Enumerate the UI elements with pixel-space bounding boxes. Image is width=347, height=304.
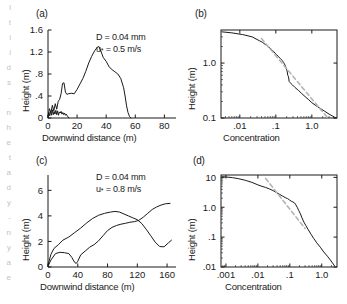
edge-artifact-line: n xyxy=(0,105,13,120)
panel-a-annotation-line1: D = 0.04 mm xyxy=(96,32,146,44)
panel-a-label: (a) xyxy=(36,8,48,19)
panel-d-y-ticks: .01.11.010 xyxy=(203,172,337,273)
panel-d-xlabel: Concentration xyxy=(225,281,282,292)
panel-c-xlabel: Downwind distance (m) xyxy=(40,281,135,292)
edge-artifact-line: t xyxy=(0,15,13,30)
edge-artifact-line: e xyxy=(0,135,13,150)
panel-c-label: (c) xyxy=(36,155,47,166)
panel-c-series-upper-envelope-curve xyxy=(48,211,172,265)
panel-a-y-tick-label: 1.2 xyxy=(30,46,43,57)
panel-c-y-tick-label: 0 xyxy=(38,261,43,272)
edge-artifact-line: e xyxy=(0,270,13,285)
panel-c-x-tick-label: 80 xyxy=(102,269,113,280)
panel-d-x-tick-label: .001 xyxy=(217,269,236,280)
panel-a-xlabel: Downwind distance (m) xyxy=(42,132,137,143)
panel-d: (d) Height (m) Concentration .001.01.11.… xyxy=(185,155,343,299)
panel-a-ylabel: Height (m) xyxy=(20,70,31,112)
panel-b-x-ticks: .01.11.0 xyxy=(225,30,333,131)
panel-c-y-tick-label: 4 xyxy=(38,210,43,221)
panel-b-label: (b) xyxy=(195,8,207,19)
panel-a-series-saltation-cloud-envelope xyxy=(48,47,131,119)
panel-b-y-tick-label: 0.1 xyxy=(203,112,216,123)
edge-artifact-line: d xyxy=(0,60,13,75)
panel-c-x-tick-label: 120 xyxy=(129,269,145,280)
panel-d-x-tick-label: .01 xyxy=(251,269,264,280)
panel-a-x-tick-label: 60 xyxy=(130,120,141,131)
panel-c-y-tick-label: 6 xyxy=(38,185,43,196)
panel-a-x-tick-label: 40 xyxy=(101,120,112,131)
panel-a-y-tick-label: .8 xyxy=(35,68,43,79)
panel-a-y-tick-label: 0 xyxy=(38,112,43,123)
panel-d-y-tick-label: 1.0 xyxy=(203,202,216,213)
edge-artifact-line: a xyxy=(0,165,13,180)
edge-artifact-line: s xyxy=(0,75,13,90)
panel-d-label: (d) xyxy=(193,155,205,166)
panel-d-y-tick-label: 10 xyxy=(205,172,216,183)
panel-c-annotation-line1: D = 0.04 mm xyxy=(96,172,146,184)
panel-d-axes-frame xyxy=(221,175,337,267)
panel-a-annotation: D = 0.04 mm u* = 0.5 m/s xyxy=(96,32,146,56)
panel-d-series-power-law-reference xyxy=(266,178,305,228)
edge-artifact-line: a xyxy=(0,255,13,270)
panel-a-series-near-surface-noise xyxy=(48,110,69,118)
panel-b-x-tick-label: 1.0 xyxy=(305,120,318,131)
panel-c-x-ticks: 04080120160 xyxy=(45,264,175,281)
edge-artifact-line: - xyxy=(0,210,13,225)
panel-b-xlabel: Concentration xyxy=(223,132,280,143)
edge-artifact-line: h xyxy=(0,120,13,135)
panel-c: (c) Height (m) Downwind distance (m) D =… xyxy=(18,155,180,299)
panel-b-plot: .01.11.00.11.0 xyxy=(185,8,343,148)
panel-b-y-tick-label: 1.0 xyxy=(203,57,216,68)
panel-a-x-tick-label: 20 xyxy=(72,120,83,131)
panel-b-series-measured-concentration-profile xyxy=(222,32,336,118)
panel-a-plot: 0204060800.4.81.21.6 xyxy=(18,8,180,148)
page-edge-artifact: ltiids-nhetady-nyae xyxy=(0,0,13,304)
panel-b-axes-frame xyxy=(221,30,337,118)
figure-container: ltiids-nhetady-nyae (a) Height (m) Downw… xyxy=(0,0,347,304)
edge-artifact-line: i xyxy=(0,30,13,45)
edge-artifact-line: d xyxy=(0,180,13,195)
panel-c-ylabel: Height (m) xyxy=(20,219,31,261)
panel-d-y-tick-label: .1 xyxy=(208,231,216,242)
panel-c-y-tick-label: 2 xyxy=(38,236,43,247)
panel-a-y-tick-label: 1.6 xyxy=(30,24,43,35)
panel-d-plot: .001.01.11.0.01.11.010 xyxy=(185,155,343,299)
panel-d-series-measured-concentration-profile xyxy=(222,177,335,266)
edge-artifact-line: n xyxy=(0,225,13,240)
panel-b-ylabel: Height (m) xyxy=(186,68,197,110)
edge-artifact-line: y xyxy=(0,240,13,255)
panel-b-x-tick-label: .1 xyxy=(272,120,280,131)
panel-c-x-tick-label: 0 xyxy=(45,269,50,280)
edge-artifact-line: t xyxy=(0,150,13,165)
panel-a-annotation-line2: u* = 0.5 m/s xyxy=(96,44,146,57)
panel-a-x-ticks: 020406080 xyxy=(45,115,169,132)
edge-artifact-line: - xyxy=(0,90,13,105)
panel-a-x-tick-label: 80 xyxy=(159,120,170,131)
panel-c-x-tick-label: 40 xyxy=(72,269,83,280)
edge-artifact-line: l xyxy=(0,0,13,15)
panel-c-annotation-line2: u* = 0.8 m/s xyxy=(96,184,146,197)
panel-d-y-tick-label: .01 xyxy=(203,261,216,272)
panel-b: (b) Height (m) Concentration .01.11.00.1… xyxy=(185,8,343,148)
panel-b-x-tick-label: .01 xyxy=(233,120,246,131)
panel-a-x-tick-label: 0 xyxy=(45,120,50,131)
panel-a: (a) Height (m) Downwind distance (m) D =… xyxy=(18,8,180,148)
panel-c-x-tick-label: 160 xyxy=(159,269,175,280)
panel-d-x-tick-label: 1.0 xyxy=(315,269,328,280)
edge-artifact-line: y xyxy=(0,195,13,210)
edge-artifact-line: i xyxy=(0,45,13,60)
panel-a-y-tick-label: .4 xyxy=(35,90,43,101)
panel-c-annotation: D = 0.04 mm u* = 0.8 m/s xyxy=(96,172,146,196)
panel-d-ylabel: Height (m) xyxy=(186,219,197,261)
panel-d-x-tick-label: .1 xyxy=(286,269,294,280)
panel-b-series-power-law-reference xyxy=(262,39,327,117)
